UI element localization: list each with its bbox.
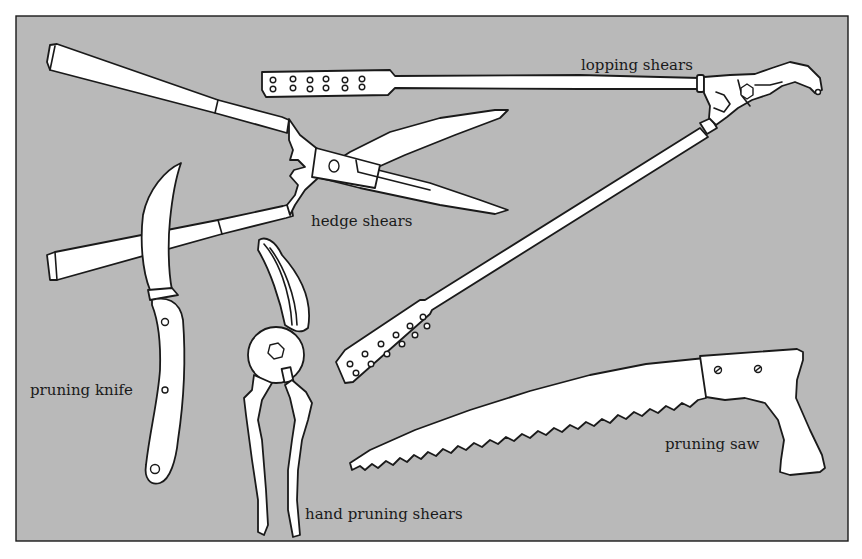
label-hedge-shears: hedge shears xyxy=(311,212,412,230)
label-pruning-saw: pruning saw xyxy=(665,435,760,453)
label-hand-pruning-shears: hand pruning shears xyxy=(305,505,463,523)
pruning-tools-illustration: lopping shears hedge shears pruning knif… xyxy=(0,0,862,559)
label-lopping-shears: lopping shears xyxy=(581,56,693,74)
label-pruning-knife: pruning knife xyxy=(30,381,133,399)
